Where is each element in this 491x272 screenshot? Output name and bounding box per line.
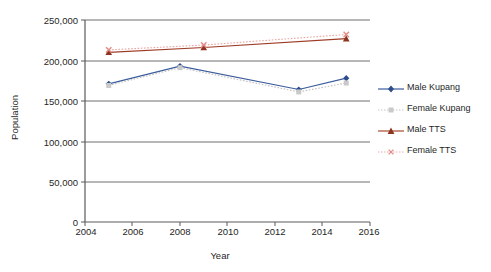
- female-tts-marker-icon: [378, 144, 404, 156]
- population-line-chart: Population 250,000 200,000 150,000 100,0…: [0, 0, 491, 272]
- data-series-layer: [105, 32, 349, 95]
- legend-item-female-tts[interactable]: Female TTS: [378, 139, 490, 160]
- legend-label-male-tts: Male TTS: [404, 124, 446, 134]
- gridlines: [85, 20, 370, 182]
- legend-item-female-kupang[interactable]: Female Kupang: [378, 97, 490, 118]
- series-male-tts: [105, 35, 349, 55]
- male-kupang-marker-icon: [378, 81, 404, 93]
- x-axis-ticks: [85, 222, 370, 226]
- male-tts-marker-icon: [378, 123, 404, 135]
- legend-label-female-kupang: Female Kupang: [404, 103, 471, 113]
- legend-item-male-tts[interactable]: Male TTS: [378, 118, 490, 139]
- legend-label-male-kupang: Male Kupang: [404, 82, 460, 92]
- legend-label-female-tts: Female TTS: [404, 145, 456, 155]
- female-kupang-marker-icon: [378, 102, 404, 114]
- series-female-kupang: [106, 65, 349, 94]
- legend-item-male-kupang[interactable]: Male Kupang: [378, 76, 490, 97]
- axis-lines: [85, 20, 370, 222]
- chart-legend: Male Kupang Female Kupang Male TTS: [378, 76, 490, 160]
- series-female-tts: [106, 32, 349, 53]
